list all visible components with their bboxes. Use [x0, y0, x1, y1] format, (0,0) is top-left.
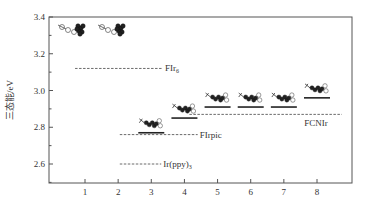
y-axis-label: 三态能/eV: [4, 80, 15, 120]
molecule-icon: [305, 84, 328, 93]
x-tick-label: 4: [182, 187, 187, 197]
y-tick-label: 3.2: [34, 49, 45, 59]
compound-levels: [138, 98, 330, 133]
molecule-icon: [58, 24, 85, 36]
x-tick-label: 7: [282, 187, 287, 197]
tick-marks: 2.62.83.03.23.412345678: [34, 12, 320, 197]
molecule-structure-icons: [58, 24, 328, 128]
molecule-icon: [172, 104, 195, 113]
molecule-icon: [239, 93, 262, 102]
triplet-energy-chart: 2.62.83.03.23.412345678 FIr6FCNIrFIrpicI…: [0, 0, 369, 213]
y-tick-label: 3.4: [34, 12, 46, 22]
y-tick-label: 3.0: [34, 86, 46, 96]
molecule-icon: [139, 119, 162, 128]
axes: [49, 17, 352, 183]
molecule-icon: [272, 93, 295, 102]
x-tick-label: 5: [215, 187, 220, 197]
reference-levels: FIr6FCNIrFIrpicIr(ppy)3: [75, 63, 342, 170]
x-tick-label: 8: [315, 187, 320, 197]
x-tick-label: 2: [116, 187, 121, 197]
reference-level-label: FIrpic: [200, 130, 222, 140]
x-tick-label: 3: [149, 187, 154, 197]
x-tick-label: 1: [83, 187, 88, 197]
y-tick-label: 2.6: [34, 159, 46, 169]
plot-frame: [49, 17, 352, 183]
molecule-icon: [206, 93, 229, 102]
reference-level-label: FIr6: [165, 63, 179, 74]
x-tick-label: 6: [248, 187, 253, 197]
y-tick-label: 2.8: [34, 122, 46, 132]
reference-level-label: Ir(ppy)3: [163, 159, 192, 170]
molecule-icon: [98, 24, 125, 36]
reference-level-label: FCNIr: [304, 118, 328, 128]
